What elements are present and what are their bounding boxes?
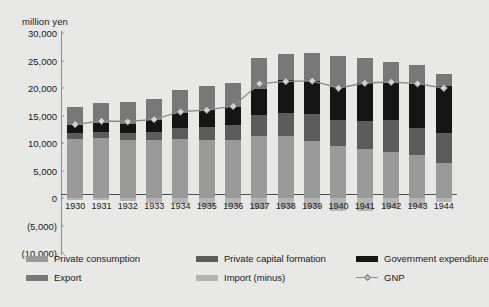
chart-legend: Private consumptionPrivate capital forma… — [26, 253, 476, 301]
legend-item[interactable]: Government expenditure — [356, 253, 489, 264]
legend-row-1: Private consumptionPrivate capital forma… — [26, 253, 476, 273]
legend-label: Export — [54, 272, 81, 283]
legend-swatch — [196, 256, 218, 262]
y-axis-tick-mark — [61, 88, 64, 89]
gnp-marker[interactable] — [282, 78, 289, 85]
x-axis-tick-label: 1930 — [62, 201, 88, 211]
x-axis-tick-label: 1938 — [273, 201, 299, 211]
gnp-marker[interactable] — [309, 77, 316, 84]
y-axis-tick-mark — [61, 33, 64, 34]
x-axis-tick-label: 1940 — [326, 201, 352, 211]
x-axis-tick-label: 1944 — [431, 201, 457, 211]
y-axis-tick: 25,000 — [28, 55, 57, 66]
legend-item[interactable]: GNP — [356, 272, 405, 283]
x-axis-tick-label: 1941 — [352, 201, 378, 211]
gnp-line-series — [62, 33, 457, 253]
y-axis-tick: 15,000 — [28, 110, 57, 121]
x-axis-tick-label: 1942 — [378, 201, 404, 211]
gnp-marker[interactable] — [440, 84, 447, 91]
gnp-marker[interactable] — [177, 108, 184, 115]
y-axis-tick-mark — [61, 198, 64, 199]
gnp-marker[interactable] — [150, 116, 157, 123]
legend-label: GNP — [384, 272, 405, 283]
y-axis-tick: 10,000 — [28, 138, 57, 149]
legend-line-marker-icon — [356, 274, 378, 281]
x-axis-tick-label: 1937 — [247, 201, 273, 211]
legend-label: Private capital formation — [224, 253, 326, 264]
x-axis-tick-label: 1932 — [115, 201, 141, 211]
legend-item[interactable]: Import (minus) — [196, 272, 285, 283]
y-axis-tick: 20,000 — [28, 83, 57, 94]
legend-swatch — [26, 256, 48, 262]
legend-label: Private consumption — [54, 253, 140, 264]
y-axis-tick-mark — [61, 170, 64, 171]
gnp-marker[interactable] — [335, 84, 342, 91]
legend-item[interactable]: Private consumption — [26, 253, 140, 264]
x-axis-tick-label: 1936 — [220, 201, 246, 211]
gnp-marker[interactable] — [414, 80, 421, 87]
y-axis-tick: 30,000 — [28, 28, 57, 39]
legend-item[interactable]: Export — [26, 272, 81, 283]
y-axis-tick-mark — [61, 60, 64, 61]
y-axis-tick: 5,000 — [33, 165, 57, 176]
legend-swatch — [356, 256, 378, 262]
y-axis-tick-mark — [61, 115, 64, 116]
legend-item[interactable]: Private capital formation — [196, 253, 326, 264]
y-axis-tick-mark — [61, 143, 64, 144]
y-axis-tick-mark — [61, 253, 64, 254]
legend-swatch — [26, 275, 48, 281]
x-axis-tick-label: 1943 — [405, 201, 431, 211]
gnp-marker[interactable] — [124, 118, 131, 125]
x-axis-tick-label: 1935 — [194, 201, 220, 211]
legend-label: Government expenditure — [384, 253, 489, 264]
gnp-marker[interactable] — [98, 117, 105, 124]
gnp-marker[interactable] — [203, 106, 210, 113]
gnp-marker[interactable] — [361, 79, 368, 86]
x-axis-tick-label: 1934 — [168, 201, 194, 211]
x-axis-tick-label: 1931 — [89, 201, 115, 211]
y-axis-tick-mark — [61, 225, 64, 226]
legend-swatch — [196, 275, 218, 281]
x-axis-tick-label: 1939 — [299, 201, 325, 211]
y-axis-tick: (5,000) — [27, 220, 57, 231]
x-axis-tick-label: 1933 — [141, 201, 167, 211]
gnp-marker[interactable] — [388, 78, 395, 85]
y-axis-tick: 0 — [52, 193, 57, 204]
legend-row-2: ExportImport (minus)GNP — [26, 272, 476, 292]
gnp-marker[interactable] — [72, 121, 79, 128]
legend-label: Import (minus) — [224, 272, 285, 283]
